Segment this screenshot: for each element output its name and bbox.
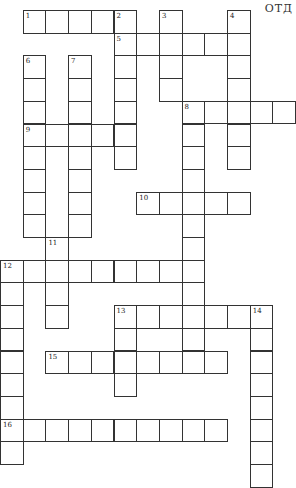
crossword-cell[interactable] bbox=[182, 214, 206, 238]
crossword-cell[interactable] bbox=[45, 10, 69, 34]
crossword-cell[interactable] bbox=[159, 78, 183, 102]
crossword-cell[interactable] bbox=[114, 101, 138, 125]
crossword-cell-15[interactable]: 15 bbox=[45, 351, 69, 375]
crossword-cell[interactable] bbox=[23, 101, 47, 125]
crossword-cell-8[interactable]: 8 bbox=[182, 101, 206, 125]
crossword-cell[interactable] bbox=[68, 78, 92, 102]
crossword-cell[interactable] bbox=[68, 419, 92, 443]
crossword-cell[interactable] bbox=[0, 373, 24, 397]
crossword-cell[interactable] bbox=[0, 282, 24, 306]
crossword-cell[interactable] bbox=[68, 351, 92, 375]
crossword-cell[interactable] bbox=[159, 351, 183, 375]
crossword-cell[interactable] bbox=[182, 328, 206, 352]
crossword-cell[interactable] bbox=[91, 260, 115, 284]
crossword-cell[interactable] bbox=[182, 124, 206, 148]
crossword-cell[interactable] bbox=[204, 419, 228, 443]
crossword-cell-11[interactable]: 11 bbox=[45, 237, 69, 261]
crossword-cell[interactable] bbox=[68, 146, 92, 170]
crossword-cell[interactable] bbox=[114, 78, 138, 102]
crossword-cell[interactable] bbox=[136, 33, 160, 57]
crossword-cell[interactable] bbox=[159, 260, 183, 284]
crossword-cell[interactable] bbox=[159, 305, 183, 329]
crossword-cell-7[interactable]: 7 bbox=[68, 55, 92, 79]
crossword-cell[interactable] bbox=[23, 419, 47, 443]
crossword-cell[interactable] bbox=[227, 101, 251, 125]
crossword-cell[interactable] bbox=[68, 214, 92, 238]
crossword-cell[interactable] bbox=[136, 419, 160, 443]
crossword-cell[interactable] bbox=[91, 124, 115, 148]
crossword-cell[interactable] bbox=[114, 373, 138, 397]
crossword-cell[interactable] bbox=[68, 101, 92, 125]
crossword-cell[interactable] bbox=[114, 351, 138, 375]
crossword-cell[interactable] bbox=[182, 305, 206, 329]
crossword-cell[interactable] bbox=[227, 305, 251, 329]
crossword-cell[interactable] bbox=[182, 33, 206, 57]
crossword-cell[interactable] bbox=[182, 169, 206, 193]
crossword-cell[interactable] bbox=[227, 124, 251, 148]
crossword-cell[interactable] bbox=[23, 214, 47, 238]
crossword-cell-9[interactable]: 9 bbox=[23, 124, 47, 148]
crossword-cell[interactable] bbox=[227, 192, 251, 216]
crossword-cell[interactable] bbox=[159, 192, 183, 216]
crossword-cell-6[interactable]: 6 bbox=[23, 55, 47, 79]
crossword-cell[interactable] bbox=[45, 124, 69, 148]
crossword-cell[interactable] bbox=[182, 282, 206, 306]
crossword-cell[interactable] bbox=[250, 441, 274, 465]
crossword-cell[interactable] bbox=[250, 351, 274, 375]
crossword-cell[interactable] bbox=[68, 192, 92, 216]
crossword-cell-14[interactable]: 14 bbox=[250, 305, 274, 329]
crossword-cell-5[interactable]: 5 bbox=[114, 33, 138, 57]
crossword-cell[interactable] bbox=[204, 305, 228, 329]
crossword-cell[interactable] bbox=[159, 33, 183, 57]
crossword-cell[interactable] bbox=[136, 351, 160, 375]
crossword-cell[interactable] bbox=[204, 33, 228, 57]
crossword-cell-2[interactable]: 2 bbox=[114, 10, 138, 34]
crossword-cell[interactable] bbox=[182, 192, 206, 216]
crossword-cell-3[interactable]: 3 bbox=[159, 10, 183, 34]
crossword-cell[interactable] bbox=[68, 10, 92, 34]
crossword-cell[interactable] bbox=[182, 351, 206, 375]
crossword-cell[interactable] bbox=[45, 282, 69, 306]
crossword-cell[interactable] bbox=[182, 237, 206, 261]
crossword-cell[interactable] bbox=[250, 419, 274, 443]
crossword-cell[interactable] bbox=[68, 169, 92, 193]
crossword-cell[interactable] bbox=[0, 305, 24, 329]
crossword-cell[interactable] bbox=[114, 419, 138, 443]
crossword-cell[interactable] bbox=[204, 351, 228, 375]
crossword-cell[interactable] bbox=[204, 192, 228, 216]
crossword-cell[interactable] bbox=[227, 33, 251, 57]
crossword-cell[interactable] bbox=[45, 305, 69, 329]
crossword-cell[interactable] bbox=[136, 305, 160, 329]
crossword-cell[interactable] bbox=[68, 124, 92, 148]
crossword-cell[interactable] bbox=[23, 78, 47, 102]
crossword-cell[interactable] bbox=[91, 351, 115, 375]
crossword-cell[interactable] bbox=[91, 419, 115, 443]
crossword-cell[interactable] bbox=[250, 101, 274, 125]
crossword-cell[interactable] bbox=[45, 419, 69, 443]
crossword-cell[interactable] bbox=[23, 192, 47, 216]
crossword-cell[interactable] bbox=[114, 124, 138, 148]
crossword-cell-13[interactable]: 13 bbox=[114, 305, 138, 329]
crossword-cell[interactable] bbox=[159, 419, 183, 443]
crossword-cell[interactable] bbox=[227, 55, 251, 79]
crossword-cell[interactable] bbox=[0, 441, 24, 465]
crossword-cell[interactable] bbox=[182, 146, 206, 170]
crossword-cell[interactable] bbox=[136, 260, 160, 284]
crossword-cell[interactable] bbox=[250, 396, 274, 420]
crossword-cell-16[interactable]: 16 bbox=[0, 419, 24, 443]
crossword-cell[interactable] bbox=[204, 101, 228, 125]
crossword-cell[interactable] bbox=[250, 464, 274, 488]
crossword-cell[interactable] bbox=[23, 169, 47, 193]
crossword-cell[interactable] bbox=[227, 146, 251, 170]
crossword-cell[interactable] bbox=[23, 260, 47, 284]
crossword-cell-4[interactable]: 4 bbox=[227, 10, 251, 34]
crossword-cell[interactable] bbox=[227, 78, 251, 102]
crossword-cell[interactable] bbox=[114, 328, 138, 352]
crossword-cell[interactable] bbox=[182, 419, 206, 443]
crossword-cell[interactable] bbox=[250, 328, 274, 352]
crossword-cell[interactable] bbox=[182, 260, 206, 284]
crossword-cell[interactable] bbox=[91, 10, 115, 34]
crossword-cell[interactable] bbox=[0, 328, 24, 352]
crossword-cell[interactable] bbox=[114, 260, 138, 284]
crossword-cell[interactable] bbox=[45, 260, 69, 284]
